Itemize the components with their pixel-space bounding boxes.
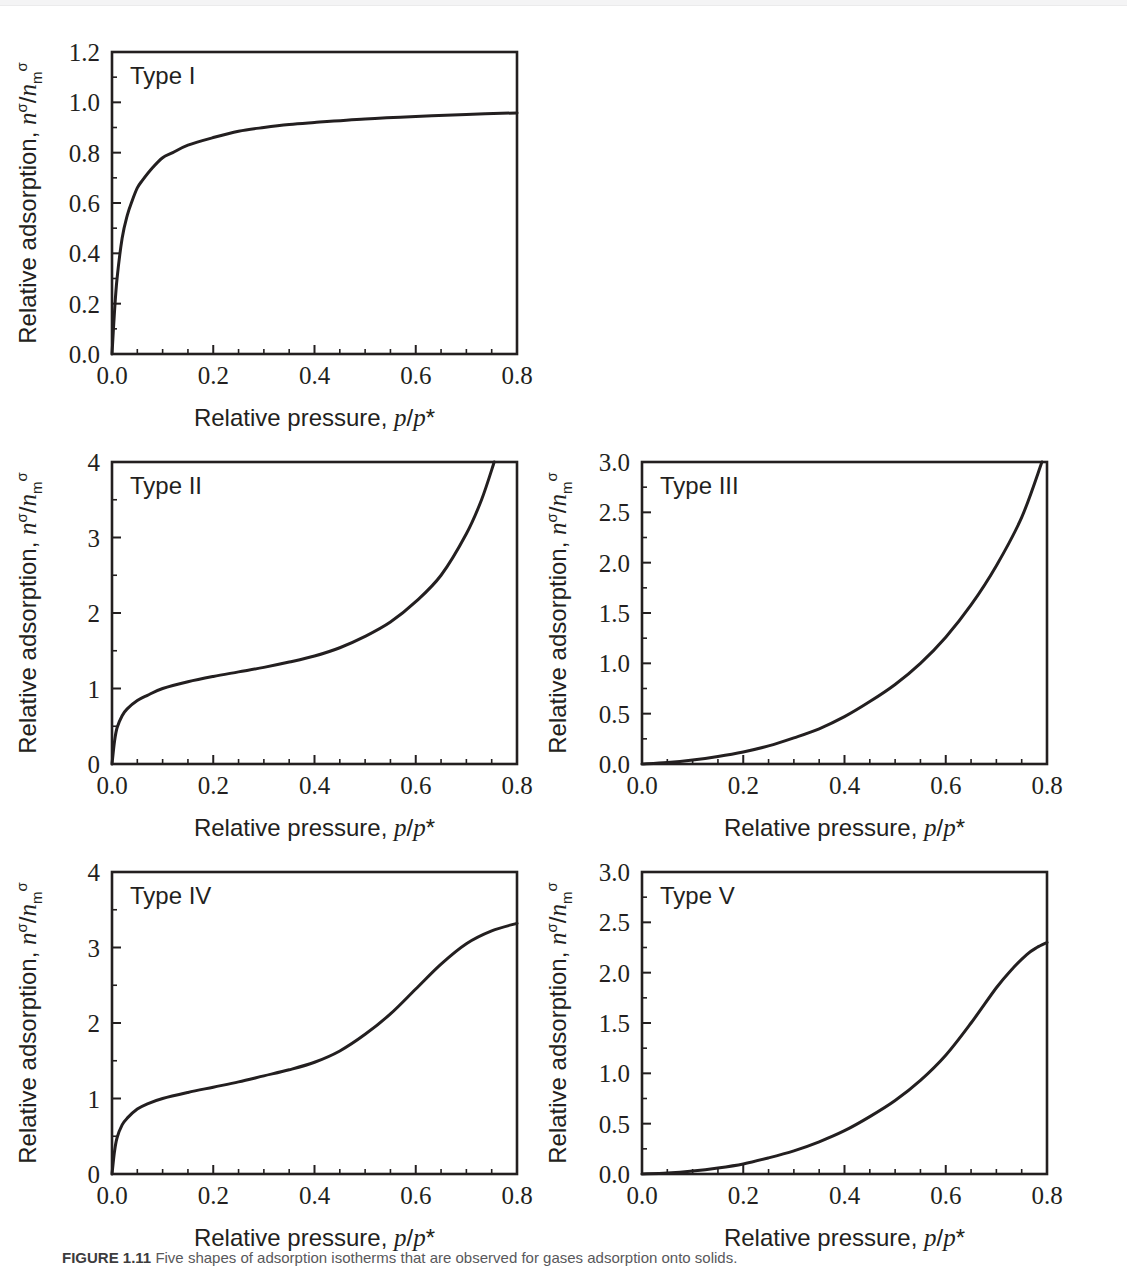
x-tick-label: 0.2 [728, 1182, 759, 1209]
x-axis-title: Relative pressure, p/p* [724, 1224, 965, 1251]
y-tick-label: 3.0 [599, 449, 630, 476]
y-tick-label: 0.0 [69, 341, 100, 368]
chart-type-iv: 0.00.20.40.60.801234Type IVRelative pres… [0, 834, 560, 1254]
y-tick-label: 0.8 [69, 140, 100, 167]
x-axis-title: Relative pressure, p/p* [194, 1224, 435, 1251]
figure-caption: FIGURE 1.11 Five shapes of adsorption is… [62, 1248, 1062, 1267]
panel-type-label: Type III [660, 472, 739, 499]
x-tick-label: 0.6 [400, 362, 431, 389]
x-tick-label: 0.8 [501, 772, 532, 799]
chart-type-iii: 0.00.20.40.60.80.00.51.01.52.02.53.0Type… [530, 424, 1090, 844]
panel-type-label: Type IV [130, 882, 211, 909]
x-tick-label: 0.0 [96, 772, 127, 799]
x-tick-label: 0.0 [626, 1182, 657, 1209]
chart-type-i: 0.00.20.40.60.80.00.20.40.60.81.01.2Type… [0, 14, 560, 434]
y-tick-label: 3 [88, 525, 101, 552]
x-tick-label: 0.6 [930, 772, 961, 799]
y-tick-label: 1 [88, 1086, 101, 1113]
y-tick-label: 0.4 [69, 240, 101, 267]
y-tick-label: 1.5 [599, 1010, 630, 1037]
x-tick-label: 0.4 [829, 1182, 861, 1209]
x-tick-label: 0.8 [501, 362, 532, 389]
y-tick-label: 1 [88, 676, 101, 703]
y-tick-label: 0.0 [599, 1161, 630, 1188]
y-tick-label: 2.5 [599, 499, 630, 526]
y-tick-label: 0.2 [69, 291, 100, 318]
isotherm-curve [642, 462, 1042, 764]
y-tick-label: 0 [88, 751, 101, 778]
x-tick-label: 0.8 [1031, 1182, 1062, 1209]
figure-caption-text: Five shapes of adsorption isotherms that… [155, 1249, 737, 1266]
x-tick-label: 0.6 [930, 1182, 961, 1209]
y-tick-label: 2 [88, 600, 101, 627]
y-tick-label: 1.0 [599, 1060, 630, 1087]
chart-type-v: 0.00.20.40.60.80.00.51.01.52.02.53.0Type… [530, 834, 1090, 1254]
panel-type-label: Type V [660, 882, 735, 909]
x-tick-label: 0.4 [829, 772, 861, 799]
y-tick-label: 1.5 [599, 600, 630, 627]
plot-frame [642, 462, 1047, 764]
plot-frame [642, 872, 1047, 1174]
chart-type-ii: 0.00.20.40.60.801234Type IIRelative pres… [0, 424, 560, 844]
x-tick-label: 0.2 [728, 772, 759, 799]
panel-type-ii: 0.00.20.40.60.801234Type IIRelative pres… [0, 424, 560, 844]
panel-type-label: Type II [130, 472, 202, 499]
plot-frame [112, 52, 517, 354]
panel-type-label: Type I [130, 62, 195, 89]
panel-type-v: 0.00.20.40.60.80.00.51.01.52.02.53.0Type… [530, 834, 1090, 1254]
y-tick-label: 0 [88, 1161, 101, 1188]
plot-frame [112, 872, 517, 1174]
y-tick-label: 2.0 [599, 960, 630, 987]
x-tick-label: 0.4 [299, 362, 331, 389]
isotherm-curve [112, 113, 517, 354]
y-axis-title: Relative adsorption, nσ/nmσ [13, 882, 45, 1164]
y-tick-label: 3.0 [599, 859, 630, 886]
panel-type-iv: 0.00.20.40.60.801234Type IVRelative pres… [0, 834, 560, 1254]
x-tick-label: 0.2 [198, 772, 229, 799]
x-tick-label: 0.6 [400, 772, 431, 799]
isotherm-curve [112, 462, 494, 764]
y-tick-label: 4 [88, 859, 101, 886]
panel-type-i: 0.00.20.40.60.80.00.20.40.60.81.01.2Type… [0, 14, 560, 434]
plot-frame [112, 462, 517, 764]
x-tick-label: 0.8 [1031, 772, 1062, 799]
y-axis-title: Relative adsorption, nσ/nmσ [543, 472, 575, 754]
y-tick-label: 3 [88, 935, 101, 962]
y-tick-label: 4 [88, 449, 101, 476]
y-tick-label: 0.0 [599, 751, 630, 778]
x-tick-label: 0.0 [96, 1182, 127, 1209]
y-tick-label: 0.5 [599, 1111, 630, 1138]
y-tick-label: 2.5 [599, 909, 630, 936]
page-top-scanline [0, 0, 1127, 6]
y-tick-label: 2.0 [599, 550, 630, 577]
isotherm-curve [642, 942, 1047, 1174]
y-tick-label: 0.5 [599, 701, 630, 728]
y-tick-label: 1.0 [69, 89, 100, 116]
x-tick-label: 0.2 [198, 1182, 229, 1209]
x-tick-label: 0.8 [501, 1182, 532, 1209]
x-tick-label: 0.2 [198, 362, 229, 389]
x-tick-label: 0.4 [299, 1182, 331, 1209]
y-axis-title: Relative adsorption, nσ/nmσ [543, 882, 575, 1164]
y-axis-title: Relative adsorption, nσ/nmσ [13, 472, 45, 754]
x-tick-label: 0.0 [96, 362, 127, 389]
y-axis-title: Relative adsorption, nσ/nmσ [13, 62, 45, 344]
isotherm-curve [112, 923, 517, 1174]
x-tick-label: 0.6 [400, 1182, 431, 1209]
figure-caption-label: FIGURE 1.11 [62, 1249, 151, 1266]
panel-type-iii: 0.00.20.40.60.80.00.51.01.52.02.53.0Type… [530, 424, 1090, 844]
y-tick-label: 1.2 [69, 39, 100, 66]
x-tick-label: 0.0 [626, 772, 657, 799]
y-tick-label: 0.6 [69, 190, 100, 217]
x-tick-label: 0.4 [299, 772, 331, 799]
y-tick-label: 2 [88, 1010, 101, 1037]
y-tick-label: 1.0 [599, 650, 630, 677]
